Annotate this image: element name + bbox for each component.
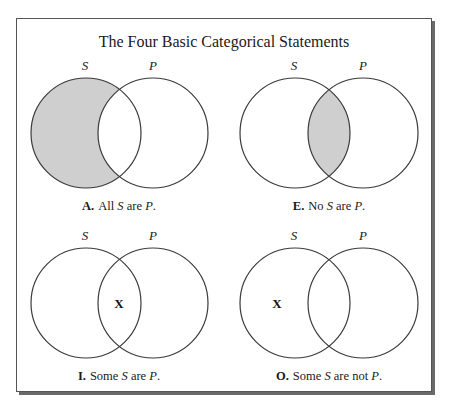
diagram-title: The Four Basic Categorical Statements: [99, 33, 350, 51]
caption-a: A.All S are P.: [82, 199, 156, 213]
panel-a-all-s-are-p: S P A.All S are P.: [31, 58, 208, 213]
circle-s: [240, 248, 350, 358]
caption-o: O.Some S are not P.: [276, 369, 382, 383]
x-mark-intersection: X: [114, 296, 124, 311]
caption-e: E.No S are P.: [293, 199, 365, 213]
label-s: S: [291, 58, 298, 73]
label-s: S: [82, 58, 89, 73]
label-p: P: [148, 58, 157, 73]
panel-i-some-s-are-p: S P X I.Some S are P.: [31, 228, 208, 383]
circle-s: [31, 248, 141, 358]
label-s: S: [82, 228, 89, 243]
x-mark-s-only: X: [272, 296, 282, 311]
panel-o-some-s-are-not-p: S P X O.Some S are not P.: [240, 228, 418, 383]
label-p: P: [358, 58, 367, 73]
label-p: P: [358, 228, 367, 243]
panel-e-no-s-are-p: S P E.No S are P.: [240, 58, 418, 213]
circle-p: [308, 248, 418, 358]
label-s: S: [291, 228, 298, 243]
label-p: P: [148, 228, 157, 243]
venn-diagrams: The Four Basic Categorical Statements S …: [0, 0, 449, 405]
caption-i: I.Some S are P.: [78, 369, 160, 383]
